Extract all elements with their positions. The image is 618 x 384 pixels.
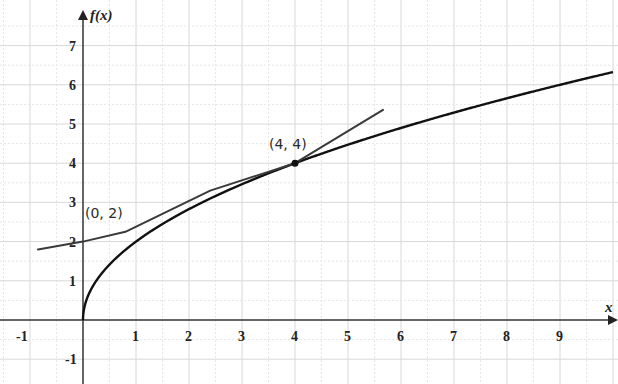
- function-graph: x f(x) -1123456789-11234567 (0, 2)(4, 4): [0, 0, 618, 384]
- annotation-label: (4, 4): [269, 136, 307, 152]
- y-tick-label: 3: [69, 195, 76, 210]
- axes: x f(x): [0, 7, 618, 384]
- x-tick-label: 9: [556, 329, 563, 344]
- grid: [0, 0, 618, 384]
- x-tick-label: 2: [185, 329, 192, 344]
- x-tick-label: 1: [132, 329, 139, 344]
- y-tick-label: 5: [69, 117, 76, 132]
- annotations: (0, 2)(4, 4): [85, 136, 307, 220]
- y-tick-label: 7: [69, 39, 76, 54]
- x-tick-label: 8: [503, 329, 510, 344]
- x-tick-label: -1: [16, 329, 28, 344]
- x-tick-label: 5: [344, 329, 351, 344]
- y-tick-label: -1: [65, 352, 77, 367]
- x-tick-label: 6: [397, 329, 404, 344]
- x-tick-label: 4: [291, 329, 298, 344]
- y-axis-arrow-icon: [78, 10, 88, 20]
- x-axis-label: x: [604, 299, 613, 315]
- x-tick-label: 7: [450, 329, 457, 344]
- y-tick-label: 6: [69, 78, 76, 93]
- series: [38, 72, 613, 320]
- y-tick-label: 1: [69, 274, 76, 289]
- tangent-line: [38, 110, 383, 250]
- annotation-label: (0, 2): [85, 205, 123, 221]
- point-marker-icon: [292, 160, 299, 167]
- x-tick-label: 3: [238, 329, 245, 344]
- y-tick-label: 4: [69, 156, 76, 171]
- y-axis-label: f(x): [90, 7, 113, 24]
